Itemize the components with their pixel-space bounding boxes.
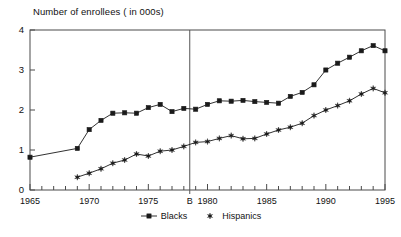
- data-point: [75, 174, 80, 180]
- data-point: [324, 68, 328, 72]
- legend-item-blacks[interactable]: Blacks: [140, 211, 188, 221]
- data-point: [359, 91, 364, 97]
- data-point: [158, 102, 162, 106]
- data-point: [383, 49, 387, 53]
- data-point: [75, 146, 79, 150]
- square-marker-icon: [140, 211, 158, 221]
- data-point: [182, 106, 186, 110]
- data-point: [122, 157, 127, 163]
- x-tick-label: 1975: [131, 196, 165, 206]
- legend-label: Hispanics: [222, 211, 261, 221]
- data-point: [371, 44, 375, 48]
- data-point: [300, 90, 304, 94]
- y-tick-label: 1: [6, 144, 24, 155]
- data-point: [323, 107, 328, 113]
- data-point: [28, 155, 32, 159]
- data-point: [276, 101, 280, 105]
- x-tick-label: 1980: [191, 196, 225, 206]
- x-tick-label: 1995: [368, 196, 401, 206]
- data-point: [253, 100, 257, 104]
- data-point: [205, 102, 209, 106]
- data-point: [264, 131, 269, 137]
- data-point: [347, 55, 351, 59]
- x-tick-label: 1985: [250, 196, 284, 206]
- data-point: [111, 111, 115, 115]
- data-point: [146, 106, 150, 110]
- data-point: [170, 110, 174, 114]
- data-point: [347, 98, 352, 104]
- data-point: [336, 61, 340, 65]
- data-point: [288, 94, 292, 98]
- y-tick-label: 2: [6, 104, 24, 115]
- data-point: [265, 100, 269, 104]
- data-point: [371, 85, 376, 91]
- x-tick-label: 1990: [309, 196, 343, 206]
- chart-figure: Number of enrollees ( in 000s) 01234 196…: [0, 0, 401, 237]
- star-marker-icon: [201, 211, 219, 221]
- data-point: [123, 111, 127, 115]
- data-point: [87, 170, 92, 176]
- data-point: [194, 107, 198, 111]
- data-point: [87, 128, 91, 132]
- y-tick-label: 3: [6, 64, 24, 75]
- chart-legend: BlacksHispanics: [0, 211, 401, 221]
- data-point: [359, 49, 363, 53]
- data-point: [181, 143, 186, 149]
- legend-label: Blacks: [161, 211, 188, 221]
- legend-item-hispanics[interactable]: Hispanics: [201, 211, 261, 221]
- data-point: [134, 111, 138, 115]
- x-tick-label: 1965: [13, 196, 47, 206]
- data-point: [300, 120, 305, 126]
- y-tick-label: 0: [6, 184, 24, 195]
- data-point: [98, 166, 103, 172]
- y-tick-label: 4: [6, 24, 24, 35]
- data-point: [382, 90, 387, 96]
- data-point: [99, 118, 103, 122]
- data-point: [229, 99, 233, 103]
- data-point: [335, 103, 340, 109]
- data-point: [312, 83, 316, 87]
- data-point: [241, 98, 245, 102]
- data-point: [110, 160, 115, 166]
- data-point: [217, 99, 221, 103]
- data-point: [311, 113, 316, 119]
- x-tick-label: 1970: [72, 196, 106, 206]
